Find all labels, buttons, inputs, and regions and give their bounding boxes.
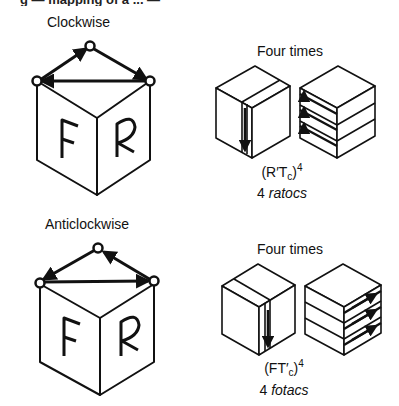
fotac-slice-cube xyxy=(222,264,295,355)
clockwise-repeat-label: Four times xyxy=(257,43,323,59)
anticlockwise-repeat-label: Four times xyxy=(257,241,323,257)
anticlockwise-cycle-arrows xyxy=(42,250,151,282)
formula-power: 4 xyxy=(298,358,304,369)
clockwise-title: Clockwise xyxy=(47,14,110,30)
caption-name: ratocs xyxy=(269,185,307,201)
caption-count: 4 xyxy=(257,185,265,201)
ratoc-layer-cube xyxy=(300,66,375,158)
caption-count: 4 xyxy=(259,382,267,398)
fotac-caption: 4 fotacs xyxy=(259,382,308,398)
clockwise-nodes xyxy=(33,42,155,86)
diagram-canvas xyxy=(0,0,399,406)
cropped-header: g — mapping of a ... — xyxy=(0,0,399,6)
fotac-layer-cube xyxy=(305,264,381,355)
fotac-formula: (FT′c)4 xyxy=(264,358,304,378)
anticlockwise-cube xyxy=(40,284,154,395)
caption-name: fotacs xyxy=(271,382,308,398)
ratoc-caption: 4 ratocs xyxy=(257,185,307,201)
clockwise-cycle-arrows xyxy=(40,49,146,81)
cropped-header-text: g — mapping of a ... — xyxy=(20,0,390,2)
ratoc-formula: (R′Tc)4 xyxy=(261,162,302,182)
formula-power: 4 xyxy=(297,162,303,173)
anticlockwise-title: Anticlockwise xyxy=(45,216,129,232)
ratoc-slice-cube xyxy=(216,66,290,158)
clockwise-cube xyxy=(37,81,150,195)
formula-base: (FT′ xyxy=(264,360,288,376)
formula-base: (R′T xyxy=(261,164,287,180)
